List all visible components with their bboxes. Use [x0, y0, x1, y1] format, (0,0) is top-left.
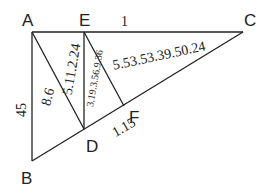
vertex-label-a: A	[22, 11, 34, 30]
segment-bc	[32, 32, 243, 161]
geometry-diagram: A E C B D F 1 45 8.6 5.11.2.24 3.19.3.56…	[0, 0, 265, 194]
measure-label-fc: 5.53.53.39.50.24	[111, 38, 207, 72]
measure-label-ef: 3.19.3.56.9.36	[84, 49, 105, 108]
vertex-label-d: D	[86, 137, 98, 156]
vertex-label-e: E	[79, 11, 90, 30]
measure-label-ab: 45	[14, 103, 29, 117]
vertex-label-b: B	[21, 169, 32, 188]
measure-label-ec: 1	[121, 14, 128, 29]
vertex-label-c: C	[244, 11, 256, 30]
measure-label-ad: 8.6	[38, 86, 57, 107]
diagram-canvas: A E C B D F 1 45 8.6 5.11.2.24 3.19.3.56…	[0, 0, 265, 194]
measure-label-ed: 5.11.2.24	[60, 42, 84, 96]
